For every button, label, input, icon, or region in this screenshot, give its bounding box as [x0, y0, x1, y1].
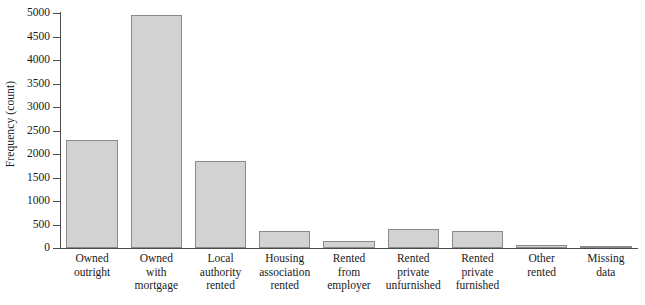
- x-axis-tick-label: Otherrented: [510, 252, 574, 279]
- y-axis-tick: [53, 37, 60, 38]
- y-axis-tick: [53, 178, 60, 179]
- y-axis-tick: [53, 84, 60, 85]
- x-axis-tick-label-line: Other: [510, 252, 574, 266]
- y-axis-tick-label: 1500: [2, 172, 50, 184]
- y-axis-tick: [53, 225, 60, 226]
- bar-chart-figure: Frequency (count) 0500100015002000250030…: [0, 0, 645, 305]
- x-axis-tick-label-line: furnished: [445, 279, 509, 293]
- x-axis-tick-label-line: Housing: [253, 252, 317, 266]
- y-axis-tick: [53, 154, 60, 155]
- x-axis-tick-label-line: with: [124, 266, 188, 280]
- x-axis-tick-label: Housingassociationrented: [253, 252, 317, 293]
- y-axis-tick-label: 3500: [2, 78, 50, 90]
- x-axis-tick-label: Ownedoutright: [60, 252, 124, 279]
- y-axis-tick: [53, 248, 60, 249]
- x-axis-tick-label: Ownedwithmortgage: [124, 252, 188, 293]
- bar: [580, 246, 631, 249]
- x-axis-tick-label-line: private: [381, 266, 445, 280]
- bar: [388, 229, 439, 248]
- plot-area: [60, 13, 638, 248]
- y-axis-tick: [53, 131, 60, 132]
- bar: [452, 231, 503, 248]
- bar: [66, 140, 117, 248]
- x-axis-tick-label-line: authority: [188, 266, 252, 280]
- y-axis-tick-label: 4500: [2, 31, 50, 43]
- y-axis-tick-label: 0: [2, 242, 50, 254]
- bar: [516, 245, 567, 248]
- x-axis-tick-label-line: mortgage: [124, 279, 188, 293]
- bar: [195, 161, 246, 248]
- y-axis-tick-label: 4000: [2, 54, 50, 66]
- x-axis-tick-label-line: Rented: [317, 252, 381, 266]
- x-axis-tick-label-line: Owned: [124, 252, 188, 266]
- x-axis-tick-label-line: from: [317, 266, 381, 280]
- x-axis-tick-label-line: Rented: [381, 252, 445, 266]
- x-axis-tick-label-line: Rented: [445, 252, 509, 266]
- x-axis-tick-label-line: private: [445, 266, 509, 280]
- x-axis-line: [60, 248, 638, 249]
- x-axis-tick-label-line: Owned: [60, 252, 124, 266]
- x-axis-tick-label-line: rented: [510, 266, 574, 280]
- y-axis-tick: [53, 60, 60, 61]
- x-axis-tick-label-line: rented: [188, 279, 252, 293]
- x-axis-tick-label-line: Missing: [574, 252, 638, 266]
- x-axis-tick-label-line: data: [574, 266, 638, 280]
- y-axis-tick-label: 5000: [2, 7, 50, 19]
- x-axis-tick-label: Localauthorityrented: [188, 252, 252, 293]
- y-axis-tick-label: 3000: [2, 101, 50, 113]
- x-axis-tick-label-line: Local: [188, 252, 252, 266]
- x-axis-tick-label: Rentedprivateunfurnished: [381, 252, 445, 293]
- y-axis-tick-label: 1000: [2, 195, 50, 207]
- x-axis-tick-label-line: rented: [253, 279, 317, 293]
- bar: [259, 231, 310, 248]
- x-axis-tick-label: Rentedfromemployer: [317, 252, 381, 293]
- bar: [131, 15, 182, 248]
- y-axis-tick-label: 2000: [2, 148, 50, 160]
- y-axis-tick: [53, 13, 60, 14]
- y-axis-tick: [53, 201, 60, 202]
- y-axis-tick-label: 2500: [2, 125, 50, 137]
- y-axis-tick-label: 500: [2, 219, 50, 231]
- x-axis-tick-label: Rentedprivatefurnished: [445, 252, 509, 293]
- y-axis-tick: [53, 107, 60, 108]
- x-axis-tick-label-line: outright: [60, 266, 124, 280]
- x-axis-tick-label-line: unfurnished: [381, 279, 445, 293]
- x-axis-tick-label-line: association: [253, 266, 317, 280]
- x-axis-tick-label: Missingdata: [574, 252, 638, 279]
- x-axis-tick-label-line: employer: [317, 279, 381, 293]
- bar: [323, 241, 374, 248]
